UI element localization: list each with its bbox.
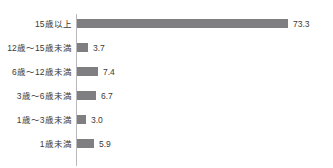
bar-row: 3歳～6歳未満 6.7 xyxy=(0,84,333,108)
bar-row: 15歳以上 73.3 xyxy=(0,12,333,36)
bar-rect[interactable] xyxy=(77,67,98,76)
bar-rect[interactable] xyxy=(77,115,86,124)
clipped-header-text xyxy=(0,0,333,5)
bar-row: 1歳～3歳未満 3.0 xyxy=(0,108,333,132)
bar-rect[interactable] xyxy=(77,91,96,100)
bar-rect[interactable] xyxy=(77,43,88,52)
bar-value-label: 5.9 xyxy=(99,132,111,156)
bar-value-label: 3.7 xyxy=(93,36,105,60)
bar-value-label: 6.7 xyxy=(101,84,113,108)
plot-area: 15歳以上 73.3 12歳～15歳未満 3.7 6歳～12歳未満 7.4 3歳… xyxy=(0,10,333,168)
bar-category-label: 6歳～12歳未満 xyxy=(0,60,72,84)
bar-value-label: 3.0 xyxy=(91,108,103,132)
bar-category-label: 1歳～3歳未満 xyxy=(0,108,72,132)
bar-category-label: 3歳～6歳未満 xyxy=(0,84,72,108)
bar-category-label: 15歳以上 xyxy=(0,12,72,36)
bar-row: 12歳～15歳未満 3.7 xyxy=(0,36,333,60)
bar-rect[interactable] xyxy=(77,19,288,28)
bar-category-label: 1歳未満 xyxy=(0,132,72,156)
bar-row: 1歳未満 5.9 xyxy=(0,132,333,156)
bar-rect[interactable] xyxy=(77,139,94,148)
horizontal-bar-chart: 15歳以上 73.3 12歳～15歳未満 3.7 6歳～12歳未満 7.4 3歳… xyxy=(0,0,333,168)
bar-category-label: 12歳～15歳未満 xyxy=(0,36,72,60)
bar-value-label: 7.4 xyxy=(103,60,115,84)
bar-value-label: 73.3 xyxy=(293,12,310,36)
bar-row: 6歳～12歳未満 7.4 xyxy=(0,60,333,84)
